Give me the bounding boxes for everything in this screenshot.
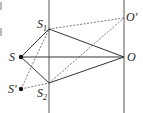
label-s2: S2 xyxy=(37,86,47,102)
double-slit-diagram: S S1 S2 O O' S' xyxy=(0,0,143,113)
label-o: O xyxy=(127,50,136,64)
label-o-prime: O' xyxy=(126,10,138,24)
label-s1: S1 xyxy=(37,17,47,33)
source-point-s-prime xyxy=(19,87,23,91)
source-point-s xyxy=(19,55,23,59)
label-s-prime: S' xyxy=(8,82,17,96)
label-s: S xyxy=(9,50,15,64)
